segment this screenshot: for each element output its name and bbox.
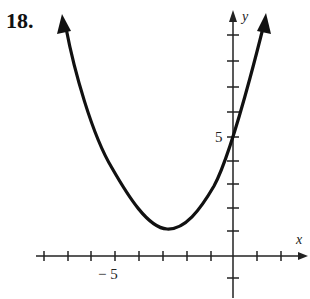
- x-axis-label: x: [295, 232, 303, 247]
- y-axis-label: y: [240, 9, 249, 24]
- x-axis-arrow-icon: [298, 252, 308, 260]
- left-arrowhead-icon: [57, 14, 71, 34]
- parabola-curve: [66, 24, 264, 229]
- x-tick-label-neg5: − 5: [98, 266, 118, 282]
- y-tick-label-5: 5: [215, 129, 223, 145]
- y-axis-arrow-icon: [229, 10, 237, 22]
- graph: − 5 5 x y: [0, 0, 310, 299]
- right-arrowhead-icon: [257, 13, 271, 34]
